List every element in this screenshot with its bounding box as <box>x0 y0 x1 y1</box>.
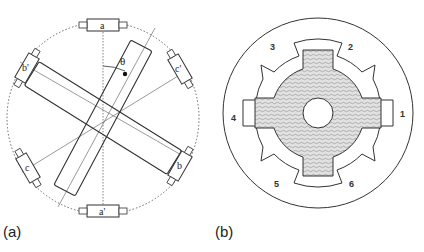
panel-b-stepper-motor-diagram <box>223 18 413 208</box>
stator-pole-label-3: 3 <box>270 42 275 52</box>
caption-panel-b: (b) <box>215 223 233 240</box>
stator-pole-label-5: 5 <box>274 179 279 189</box>
label-coil-a-prime: a' <box>99 206 105 217</box>
label-theta: θ <box>120 55 125 67</box>
rotor-dot <box>123 72 127 76</box>
stator-pole-label-4: 4 <box>231 113 236 123</box>
stator-pole-label-6: 6 <box>349 179 354 189</box>
rotor-axis-line <box>58 28 155 207</box>
winding-bar <box>24 62 181 175</box>
panel-a-synchro-diagram <box>7 19 199 217</box>
axis-line-c <box>22 76 178 172</box>
caption-panel-a: (a) <box>3 223 21 240</box>
label-coil-c-prime: c' <box>175 63 181 74</box>
label-coil-a: a <box>100 20 105 31</box>
stator-pole-label-1: 1 <box>400 109 405 119</box>
motor-diagram-figure: a a' c' b' c b θ 1 2 3 4 5 6 <box>0 0 424 252</box>
label-coil-b-prime: b' <box>22 62 29 73</box>
stator-pole-label-2: 2 <box>348 42 353 52</box>
axis-line-b <box>20 62 190 160</box>
label-coil-c: c <box>25 162 30 173</box>
shaft-hole <box>303 98 333 128</box>
label-coil-b: b <box>177 160 182 171</box>
